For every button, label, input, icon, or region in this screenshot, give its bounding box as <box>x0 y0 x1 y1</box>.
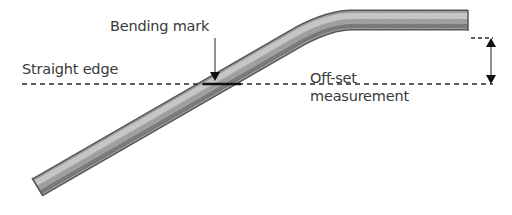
offset-label-line2: measurement <box>310 88 409 104</box>
bending-mark-arrow-icon <box>210 38 220 81</box>
offset-double-arrow-icon <box>486 38 496 84</box>
straight-edge-label: Straight edge <box>22 61 118 77</box>
offset-label-line1: Off-set <box>310 70 357 86</box>
pipe-offset-diagram: Bending mark Straight edge Off-set measu… <box>0 0 512 215</box>
bending-mark-label: Bending mark <box>110 18 209 34</box>
diagram-canvas <box>0 0 512 215</box>
